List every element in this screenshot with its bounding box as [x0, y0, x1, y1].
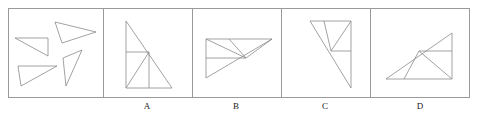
choice-label-a: A: [127, 100, 167, 112]
figure-frame: [9, 9, 470, 98]
choice-label-c: C: [305, 100, 345, 112]
geometry-figure-container: A B C D: [0, 0, 478, 117]
choice-label-b: B: [216, 100, 256, 112]
choice-label-d: D: [400, 100, 440, 112]
